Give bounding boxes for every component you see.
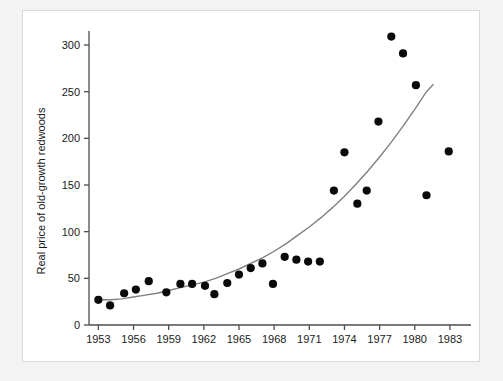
data-point: [201, 282, 209, 290]
figure-root: Real price of old-growth redwoods 050100…: [0, 0, 503, 381]
data-point: [145, 277, 153, 285]
data-point: [412, 81, 420, 89]
data-point: [374, 117, 382, 125]
y-tick-label: 0: [74, 319, 80, 331]
x-tick-label: 1980: [403, 333, 427, 345]
data-point: [210, 290, 218, 298]
x-tick-label: 1968: [262, 333, 286, 345]
data-point: [247, 264, 255, 272]
trend-curve: [98, 84, 433, 300]
y-tick-label: 150: [62, 179, 80, 191]
data-point: [235, 271, 243, 279]
y-tick-label: 200: [62, 132, 80, 144]
data-points-group: [94, 33, 453, 310]
data-point: [132, 285, 140, 293]
data-point: [176, 280, 184, 288]
x-axis-ticks: 1953195619591962196519681971197419771980…: [86, 325, 462, 345]
y-tick-label: 50: [68, 272, 80, 284]
data-point: [188, 280, 196, 288]
y-tick-label: 100: [62, 226, 80, 238]
data-point: [304, 257, 312, 265]
y-axis-title: Real price of old-growth redwoods: [35, 107, 47, 274]
data-point: [281, 253, 289, 261]
data-point: [292, 256, 300, 264]
data-point: [387, 33, 395, 41]
data-point: [94, 296, 102, 304]
x-tick-label: 1977: [367, 333, 391, 345]
x-tick-label: 1971: [297, 333, 321, 345]
data-point: [316, 257, 324, 265]
data-point: [223, 279, 231, 287]
data-point: [269, 280, 277, 288]
data-point: [106, 301, 114, 309]
x-tick-label: 1962: [192, 333, 216, 345]
chart-panel: Real price of old-growth redwoods 050100…: [22, 10, 480, 362]
y-axis-ticks: 050100150200250300: [62, 39, 89, 331]
data-point: [162, 288, 170, 296]
y-tick-label: 250: [62, 86, 80, 98]
x-tick-label: 1965: [227, 333, 251, 345]
x-tick-label: 1959: [156, 333, 180, 345]
data-point: [258, 259, 266, 267]
data-point: [340, 148, 348, 156]
y-tick-label: 300: [62, 39, 80, 51]
x-tick-label: 1956: [121, 333, 145, 345]
data-point: [120, 289, 128, 297]
data-point: [445, 147, 453, 155]
scatter-plot: Real price of old-growth redwoods 050100…: [23, 11, 479, 361]
data-point: [399, 49, 407, 57]
y-axis-title-group: Real price of old-growth redwoods: [35, 107, 47, 274]
data-point: [353, 200, 361, 208]
data-point: [422, 191, 430, 199]
data-point: [363, 187, 371, 195]
data-point: [330, 187, 338, 195]
x-tick-label: 1974: [332, 333, 356, 345]
x-tick-label: 1953: [86, 333, 110, 345]
x-tick-label: 1983: [438, 333, 462, 345]
